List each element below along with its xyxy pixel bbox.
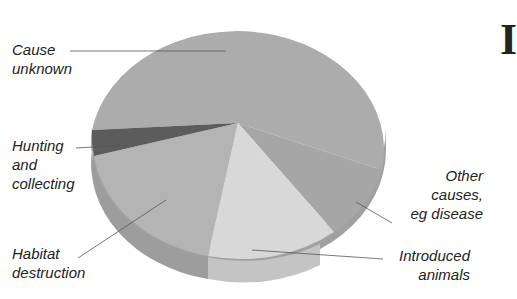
- label-line: causes,: [410, 185, 483, 204]
- label-line: Cause: [12, 40, 72, 59]
- cropped-heading-glyph: I: [500, 18, 517, 62]
- label-line: Other: [410, 166, 483, 185]
- label-line: collecting: [12, 174, 75, 193]
- label-hunting: Hunting and collecting: [12, 136, 75, 193]
- label-cause-unknown: Cause unknown: [12, 40, 72, 78]
- label-line: animals: [399, 265, 470, 284]
- label-line: unknown: [12, 59, 72, 78]
- label-line: and: [12, 155, 75, 174]
- label-line: eg disease: [410, 204, 483, 223]
- label-line: Introduced: [399, 246, 470, 265]
- label-line: Hunting: [12, 136, 75, 155]
- label-line: destruction: [12, 263, 85, 282]
- label-introduced: Introduced animals: [399, 246, 470, 284]
- label-habitat: Habitat destruction: [12, 244, 85, 282]
- label-line: Habitat: [12, 244, 85, 263]
- label-other-causes: Other causes, eg disease: [410, 166, 483, 223]
